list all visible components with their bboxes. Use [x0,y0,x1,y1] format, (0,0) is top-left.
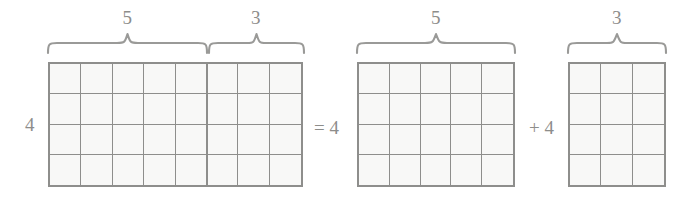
grid-cell [270,64,301,94]
brace-label-left-five: 5 [48,8,207,27]
grid-left-combined [48,62,303,187]
grid-cell [359,64,390,94]
brace-right-three [566,32,668,54]
grid-cell [482,94,513,124]
grid-cell [601,155,632,185]
grid-cell [359,125,390,155]
grid-cell [570,94,601,124]
grid-cell [50,64,81,94]
grid-cell [601,125,632,155]
grid-cell [451,94,482,124]
brace-label-middle-five: 5 [357,8,515,27]
grid-cell [113,64,144,94]
grid-cell [238,125,269,155]
brace-left-three [207,32,306,54]
grid-cell [390,125,421,155]
grid-cell [451,125,482,155]
grid-cell [207,155,238,185]
grid-cell [451,64,482,94]
grid-cell [238,155,269,185]
grid-cell [176,94,207,124]
grid-cell [421,155,452,185]
grid-cell [633,64,664,94]
row-label-left-four: 4 [25,115,35,134]
grid-cell [451,155,482,185]
grid-cell [570,125,601,155]
grid-cell [144,64,175,94]
grid-cell [81,125,112,155]
grid-cell [81,155,112,185]
grid-cell [270,155,301,185]
grid-cell [50,125,81,155]
grid-cell [482,155,513,185]
grid-cell [207,94,238,124]
grid-cell [81,94,112,124]
grid-cell [359,94,390,124]
grid-cell [113,94,144,124]
grid-cell [421,64,452,94]
grid-cell [633,94,664,124]
grid-cell [144,155,175,185]
figure-canvas: 5 3 4 [0,0,700,200]
grid-cell [482,64,513,94]
grid-cell [390,94,421,124]
grid-middle-four-by-five [357,62,515,187]
grid-right-four-by-three [568,62,666,187]
grid-cell [176,64,207,94]
grid-cell [176,125,207,155]
grid-cell [270,94,301,124]
grid-cell [390,64,421,94]
grid-cell [601,64,632,94]
brace-label-left-three: 3 [209,8,303,27]
grid-cell [113,125,144,155]
grid-cell [50,155,81,185]
grid-cell [144,94,175,124]
plus-operator: + 4 [529,118,554,137]
grid-cell [570,155,601,185]
grid-cell [238,94,269,124]
grid-cell [390,155,421,185]
grid-cell [144,125,175,155]
grid-cell [359,155,390,185]
grid-cell [207,64,238,94]
equals-operator: = 4 [314,118,339,137]
grid-cell [421,125,452,155]
brace-label-right-three: 3 [568,8,666,27]
grid-cell [570,64,601,94]
grid-cell [601,94,632,124]
grid-cell [207,125,238,155]
grid-cell [81,64,112,94]
grid-split-divider [206,62,208,187]
grid-cell [50,94,81,124]
grid-cell [238,64,269,94]
grid-cell [176,155,207,185]
brace-middle-five [355,32,517,54]
grid-cell [482,125,513,155]
grid-cell [633,125,664,155]
grid-cell [113,155,144,185]
grid-cell [421,94,452,124]
brace-left-five [46,32,209,54]
grid-cell [270,125,301,155]
grid-cell [633,155,664,185]
